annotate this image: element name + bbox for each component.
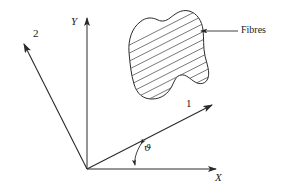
axis-1 xyxy=(87,105,212,169)
angle-arc-path xyxy=(135,144,141,165)
axis-2 xyxy=(24,44,87,169)
angle-arc xyxy=(135,144,141,165)
axis-2-label: 2 xyxy=(33,28,39,39)
axis-1-label: 1 xyxy=(186,98,192,109)
axis-y-label: Y xyxy=(71,16,77,27)
fibres-callout-label: Fibres xyxy=(241,25,266,35)
axis-1-line xyxy=(87,105,212,169)
axis-x-label: X xyxy=(215,172,222,183)
figure-root: Y X 1 2 ϑ Fibres xyxy=(0,0,284,194)
lamina-outline xyxy=(129,11,209,99)
axis-2-line xyxy=(24,44,87,169)
angle-label: ϑ xyxy=(144,143,151,153)
lamina-region xyxy=(100,0,230,172)
